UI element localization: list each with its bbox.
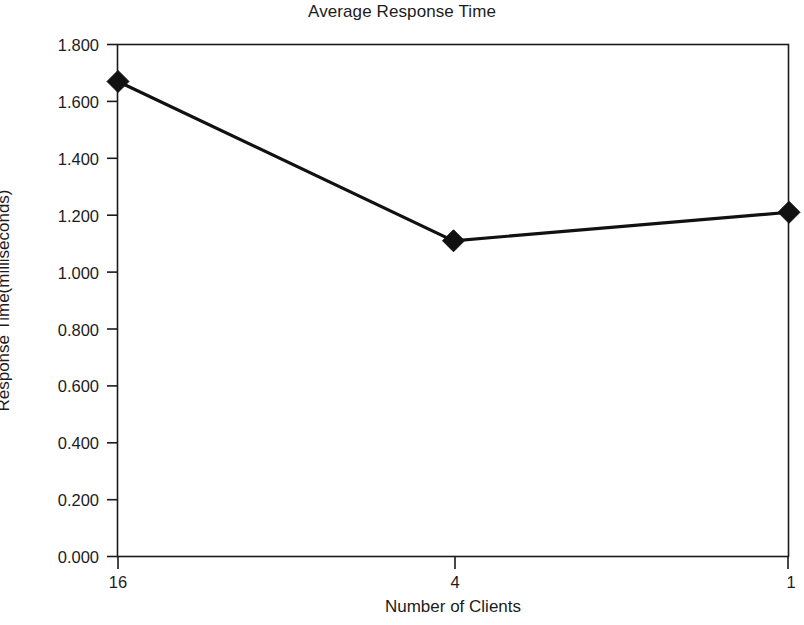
series-line-average-response-time: [118, 82, 789, 241]
y-tick-label: 1.200: [58, 207, 99, 225]
line-chart-plot: 1.800 1.600 1.400 1.200 1.000 0.800 0.60…: [0, 0, 804, 625]
y-axis-tick-labels: 1.800 1.600 1.400 1.200 1.000 0.800 0.60…: [58, 36, 99, 566]
x-axis-title: Number of Clients: [117, 597, 789, 617]
x-tick-label: 1: [786, 573, 795, 591]
x-tick-label: 4: [450, 573, 459, 591]
y-tick-label: 0.200: [58, 491, 99, 509]
data-point-marker: [778, 201, 800, 223]
plot-frame: [118, 45, 789, 557]
data-point-marker: [443, 230, 465, 252]
data-point-marker: [107, 70, 129, 92]
y-tick-label: 1.800: [58, 36, 99, 54]
x-tick-label: 16: [109, 573, 127, 591]
y-tick-label: 1.000: [58, 264, 99, 282]
y-axis-ticks: [107, 45, 117, 557]
y-tick-label: 0.400: [58, 434, 99, 452]
y-tick-label: 0.800: [58, 321, 99, 339]
y-tick-label: 1.600: [58, 93, 99, 111]
series-markers: [107, 70, 800, 251]
y-tick-label: 0.000: [58, 548, 99, 566]
chart-page: Average Response Time 1.800 1.600 1.400 …: [0, 0, 804, 625]
x-axis-tick-labels: 16 4 1: [109, 573, 796, 591]
x-axis-ticks: [118, 557, 788, 570]
y-tick-label: 1.400: [58, 150, 99, 168]
y-tick-label: 0.600: [58, 377, 99, 395]
